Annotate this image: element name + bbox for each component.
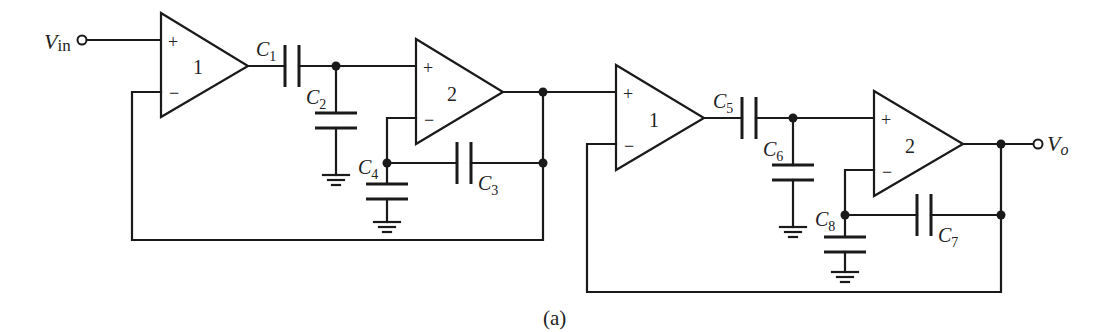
svg-text:1: 1	[649, 109, 659, 131]
opamp-1b: + − 1	[616, 65, 704, 170]
c6-label: C6	[763, 138, 783, 164]
node	[997, 211, 1006, 220]
svg-text:−: −	[169, 83, 179, 103]
svg-text:−: −	[882, 162, 892, 182]
c4-label: C4	[358, 156, 378, 182]
node	[539, 159, 548, 168]
node	[997, 140, 1006, 149]
vo-label: Vo	[1047, 131, 1068, 158]
svg-text:−: −	[624, 136, 634, 156]
svg-text:+: +	[423, 58, 433, 78]
wire	[845, 170, 874, 237]
node	[539, 88, 548, 97]
opamp-2b: + − 2	[874, 91, 963, 196]
c7-label: C7	[938, 224, 958, 250]
figure-caption: (a)	[543, 306, 566, 330]
c1-label: C1	[256, 38, 276, 64]
output-terminal	[1034, 140, 1043, 149]
circuit-diagram: Vin + − 1 C1 C2 + − 2 C3	[0, 0, 1117, 332]
svg-text:+: +	[168, 32, 178, 52]
c8-label: C8	[815, 208, 835, 234]
svg-text:+: +	[881, 110, 891, 130]
svg-text:−: −	[424, 110, 434, 130]
svg-text:1: 1	[193, 56, 203, 78]
opamp-1a: + − 1	[161, 13, 248, 117]
c2-label: C2	[306, 86, 326, 112]
wire	[387, 118, 416, 184]
ground-icon	[832, 272, 858, 282]
c3-label: C3	[478, 172, 498, 198]
svg-text:2: 2	[447, 83, 457, 105]
ground-icon	[374, 222, 400, 232]
ground-icon	[780, 227, 806, 237]
svg-text:2: 2	[905, 135, 915, 157]
ground-icon	[323, 175, 349, 185]
input-terminal	[78, 36, 87, 45]
svg-text:+: +	[623, 84, 633, 104]
opamp-2a: + − 2	[416, 39, 503, 144]
c5-label: C5	[713, 90, 733, 116]
vin-label: Vin	[44, 29, 71, 55]
